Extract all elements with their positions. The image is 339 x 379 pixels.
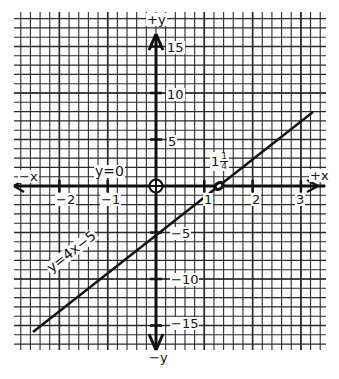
plus-x-label: +x [309, 169, 330, 182]
x-tick-label-2: 2 [251, 193, 261, 206]
origin-marker-icon [149, 179, 163, 193]
minus-x-label: −x [18, 170, 39, 183]
x-intercept-label: 1 1 4 [210, 152, 229, 171]
intercept-denominator: 4 [221, 162, 227, 171]
y-tick-label-10: 10 [166, 88, 185, 101]
plus-y-label: +y [146, 13, 167, 26]
y-zero-label: y=0 [94, 165, 125, 178]
x-tick-label-3: 3 [295, 193, 305, 206]
y-tick-label-15: 15 [166, 41, 185, 54]
y-tick-label-neg10: −10 [170, 273, 199, 286]
grid-lines [14, 12, 326, 350]
x-tick-label-neg1: −1 [100, 193, 121, 206]
x-tick-label-neg2: −2 [55, 193, 76, 206]
x-tick-label-1: 1 [203, 193, 213, 206]
y-tick-label-neg15: −15 [170, 317, 199, 330]
intercept-whole: 1 [211, 154, 219, 169]
minus-y-label: −y [148, 351, 169, 364]
y-tick-label-neg5: −5 [170, 227, 191, 240]
y-tick-label-5: 5 [167, 135, 177, 148]
